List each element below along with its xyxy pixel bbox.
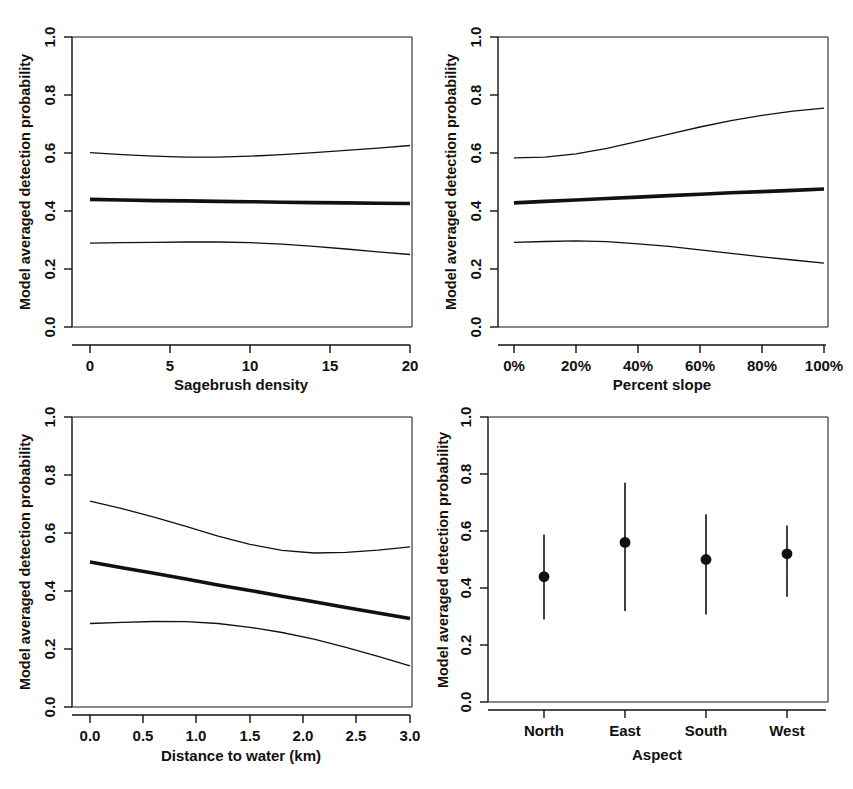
panel-4-x-ticks: North East South West [524,710,805,739]
panel-4-x-axis-label: Aspect [632,746,682,763]
mean-estimate-curve [90,199,410,203]
point-north [539,571,550,582]
y-tick-label: 0.0 [41,317,58,338]
point-east [620,537,631,548]
y-tick-label: 0.6 [41,523,58,544]
y-tick-label: 0.2 [41,639,58,660]
x-category-label: North [524,722,564,739]
x-tick-label: 0 [86,357,94,374]
y-tick-label: 0.0 [457,692,474,713]
panel-4-svg: 0.0 0.2 0.4 0.6 0.8 1.0 North East South… [426,395,853,789]
y-tick-label: 0.6 [467,143,484,164]
x-tick-label: 2.5 [346,727,367,744]
upper-ci-curve [514,108,824,158]
y-tick-label: 0.2 [467,259,484,280]
panel-percent-slope: 0.0 0.2 0.4 0.6 0.8 1.0 0% 20% 40% 60% 8… [426,0,853,395]
x-tick-label: 20% [561,357,591,374]
panel-2-y-axis-label: Model averaged detection probability [443,54,459,310]
panel-3-axes [72,417,412,715]
upper-ci-curve [90,501,410,553]
x-tick-label: 60% [685,357,715,374]
y-tick-label: 0.0 [41,697,58,718]
y-tick-label: 0.2 [41,259,58,280]
x-tick-label: 0.0 [80,727,101,744]
upper-ci-curve [90,146,410,158]
x-category-label: South [685,722,728,739]
y-tick-label: 0.0 [467,317,484,338]
panel-4-y-axis-label: Model averaged detection probability [435,432,451,688]
x-tick-label: 2.0 [293,727,314,744]
x-tick-label: 80% [747,357,777,374]
panel-2-curves [514,108,824,263]
panel-1-svg: 0.0 0.2 0.4 0.6 0.8 1.0 0 5 10 15 20 [0,0,426,395]
y-tick-label: 1.0 [457,407,474,428]
x-tick-label: 0.5 [133,727,154,744]
x-tick-label: 20 [402,357,419,374]
panel-distance-to-water: 0.0 0.2 0.4 0.6 0.8 1.0 0.0 0.5 1.0 1.5 … [0,395,426,789]
y-tick-label: 0.4 [41,200,58,222]
y-tick-label: 0.6 [457,521,474,542]
point-south [701,554,712,565]
y-tick-label: 0.4 [457,577,474,599]
x-tick-label: 10 [242,357,259,374]
panel-sagebrush-density: 0.0 0.2 0.4 0.6 0.8 1.0 0 5 10 15 20 [0,0,426,395]
lower-ci-curve [90,622,410,666]
y-tick-label: 0.4 [41,580,58,602]
y-tick-label: 1.0 [41,27,58,48]
point-west [782,548,793,559]
panel-1-x-ticks: 0 5 10 15 20 [86,345,419,374]
y-tick-label: 0.8 [467,85,484,106]
y-tick-label: 0.4 [467,200,484,222]
panel-1-curves [90,146,410,255]
x-tick-label: 5 [166,357,174,374]
panel-3-x-axis-label: Distance to water (km) [161,747,321,764]
panel-1-x-axis-label: Sagebrush density [174,376,309,393]
panel-4-errorbars [539,483,793,620]
panel-2-x-ticks: 0% 20% 40% 60% 80% 100% [503,345,843,374]
lower-ci-curve [90,242,410,255]
x-tick-label: 15 [322,357,339,374]
y-tick-label: 0.8 [457,464,474,485]
panel-4-axes [488,417,828,710]
figure-panel-grid: 0.0 0.2 0.4 0.6 0.8 1.0 0 5 10 15 20 [0,0,853,789]
y-tick-label: 1.0 [467,27,484,48]
y-tick-label: 0.6 [41,143,58,164]
x-tick-label: 0% [503,357,525,374]
x-category-label: East [609,722,641,739]
x-tick-label: 40% [623,357,653,374]
panel-4-y-ticks: 0.0 0.2 0.4 0.6 0.8 1.0 [457,407,488,713]
x-category-label: West [769,722,805,739]
mean-estimate-curve [90,562,410,619]
panel-1-y-axis-label: Model averaged detection probability [17,54,33,310]
panel-aspect: 0.0 0.2 0.4 0.6 0.8 1.0 North East South… [426,395,853,789]
panel-1-axes [72,37,412,345]
x-tick-label: 3.0 [400,727,421,744]
x-tick-label: 1.5 [240,727,261,744]
panel-3-y-axis-label: Model averaged detection probability [17,434,33,690]
mean-estimate-curve [514,189,824,203]
x-tick-label: 100% [805,357,843,374]
panel-2-svg: 0.0 0.2 0.4 0.6 0.8 1.0 0% 20% 40% 60% 8… [426,0,853,395]
y-tick-label: 1.0 [41,407,58,428]
lower-ci-curve [514,241,824,263]
panel-3-x-ticks: 0.0 0.5 1.0 1.5 2.0 2.5 3.0 [80,715,421,744]
panel-2-y-ticks: 0.0 0.2 0.4 0.6 0.8 1.0 [467,27,498,338]
panel-1-y-ticks: 0.0 0.2 0.4 0.6 0.8 1.0 [41,27,72,338]
x-tick-label: 1.0 [186,727,207,744]
panel-3-y-ticks: 0.0 0.2 0.4 0.6 0.8 1.0 [41,407,72,718]
y-tick-label: 0.8 [41,85,58,106]
y-tick-label: 0.2 [457,635,474,656]
panel-2-x-axis-label: Percent slope [613,376,711,393]
panel-3-svg: 0.0 0.2 0.4 0.6 0.8 1.0 0.0 0.5 1.0 1.5 … [0,395,426,789]
panel-3-curves [90,501,410,666]
y-tick-label: 0.8 [41,465,58,486]
